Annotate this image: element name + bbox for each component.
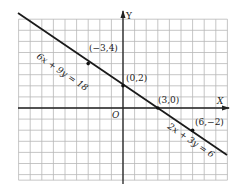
x-axis-arrow-icon <box>222 106 230 111</box>
point-label-neg3-4: (−3,4) <box>89 44 118 53</box>
point-marker <box>86 62 90 66</box>
point-label-0-2: (0,2) <box>126 74 147 83</box>
point-marker <box>121 84 125 88</box>
point-marker <box>191 128 195 132</box>
y-axis-label: Y <box>126 12 132 21</box>
point-label-3-0: (3,0) <box>158 96 179 105</box>
x-axis-label: X <box>217 97 223 106</box>
point-label-6-neg2: (6,−2) <box>195 118 224 127</box>
origin-label: O <box>112 111 119 120</box>
y-axis-arrow-icon <box>121 10 126 18</box>
point-marker <box>156 106 160 110</box>
coordinate-plane <box>0 0 240 189</box>
